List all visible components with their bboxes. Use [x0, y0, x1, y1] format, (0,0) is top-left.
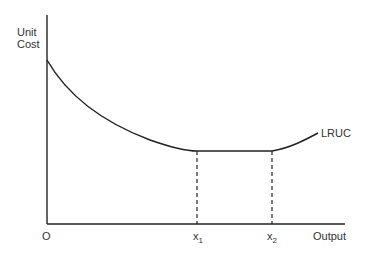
x-axis-label: Output: [313, 230, 346, 242]
x2-subscript: 2: [273, 236, 277, 245]
x2-tick-label: x2: [267, 230, 277, 247]
y-axis-label-line1: Unit: [17, 26, 37, 38]
curve-label-lruc: LRUC: [321, 127, 351, 139]
origin-label: O: [42, 230, 51, 242]
x1-subscript: 1: [199, 236, 203, 245]
lruc-curve: [47, 60, 318, 151]
y-axis-label-line2: Cost: [17, 38, 40, 50]
chart-canvas: [0, 0, 372, 253]
x1-tick-label: x1: [193, 230, 203, 247]
